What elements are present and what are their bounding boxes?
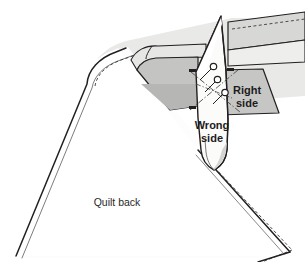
right-side-label-line1: Right (233, 84, 261, 96)
seam-tick-left-lower (189, 106, 196, 109)
wrong-side-label-line1: Wrong (195, 119, 230, 131)
diagram-canvas: Quilt back Wrong side Right side (0, 0, 305, 262)
right-side-label-line2: side (236, 97, 258, 109)
quilt-binding-illustration: Quilt back Wrong side Right side (0, 0, 305, 262)
quilt-back-label: Quilt back (94, 196, 141, 208)
wrong-side-label-line2: side (201, 132, 223, 144)
seam-tick-left-upper (189, 69, 196, 72)
seam-tick-right-upper (227, 68, 234, 71)
